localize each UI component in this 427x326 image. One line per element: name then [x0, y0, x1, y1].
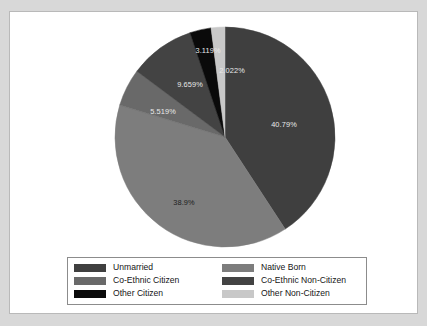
legend-item-label: Co-Ethnic Citizen — [113, 275, 179, 286]
legend-color-swatch — [222, 277, 254, 285]
legend-item-label: Other Citizen — [113, 288, 163, 299]
legend-item-label: Unmarried — [113, 262, 153, 273]
legend-item[interactable]: Co-Ethnic Non-Citizen — [222, 275, 360, 286]
legend-item[interactable]: Other Non-Citizen — [222, 288, 360, 299]
legend-color-swatch — [74, 290, 106, 298]
chart-legend: UnmarriedNative BornCo-Ethnic CitizenCo-… — [67, 257, 367, 305]
legend-item-label: Other Non-Citizen — [261, 288, 330, 299]
legend-item[interactable]: Unmarried — [74, 262, 212, 273]
legend-color-swatch — [74, 264, 106, 272]
figure-panel: 40.79%38.9%5.519%9.659%3.119%2.022% Unma… — [9, 11, 418, 314]
legend-color-swatch — [222, 290, 254, 298]
legend-item[interactable]: Co-Ethnic Citizen — [74, 275, 212, 286]
pie-slices — [114, 26, 336, 248]
legend-item[interactable]: Native Born — [222, 262, 360, 273]
legend-color-swatch — [222, 264, 254, 272]
pie-chart: 40.79%38.9%5.519%9.659%3.119%2.022% — [114, 26, 336, 248]
legend-item-label: Native Born — [261, 262, 306, 273]
legend-color-swatch — [74, 277, 106, 285]
legend-item[interactable]: Other Citizen — [74, 288, 212, 299]
legend-item-label: Co-Ethnic Non-Citizen — [261, 275, 346, 286]
plot-area: 40.79%38.9%5.519%9.659%3.119%2.022% Unma… — [10, 12, 417, 313]
legend-entry-grid: UnmarriedNative BornCo-Ethnic CitizenCo-… — [74, 262, 360, 299]
